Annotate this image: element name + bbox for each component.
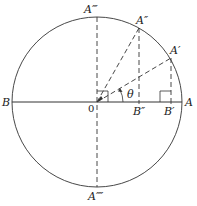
label-a-double: A″ [135, 14, 149, 27]
label-a-quad: A⁗ [87, 190, 104, 203]
label-theta: θ [127, 88, 134, 101]
label-b: B [1, 96, 10, 109]
label-a-triple: A‴ [83, 3, 98, 16]
label-origin: 0 [88, 103, 94, 114]
label-a-prime: A′ [169, 44, 181, 57]
label-a: A [184, 96, 193, 109]
label-b-prime: B′ [163, 105, 175, 118]
circle-diagram: A‴ A″ A′ B A 0 θ B″ B′ A⁗ [0, 0, 197, 206]
diagram-canvas: A‴ A″ A′ B A 0 θ B″ B′ A⁗ [0, 0, 197, 206]
label-b-double: B″ [132, 105, 146, 118]
origin-arrowhead-icon [97, 96, 103, 102]
right-angle-mark-b-prime [160, 91, 171, 102]
